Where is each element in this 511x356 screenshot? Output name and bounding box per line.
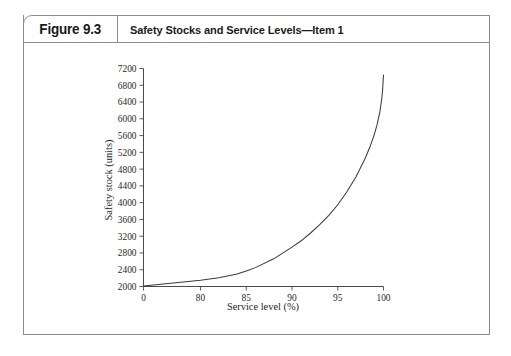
- figure-number-cell: Figure 9.3: [24, 16, 118, 42]
- figure-title-cell: Safety Stocks and Service Levels—Item 1: [118, 16, 489, 42]
- figure-frame: [23, 15, 490, 335]
- figure-header: Figure 9.3 Safety Stocks and Service Lev…: [23, 15, 490, 43]
- figure-number-label: Figure 9.3: [40, 21, 102, 37]
- figure-title-label: Safety Stocks and Service Levels—Item 1: [130, 23, 344, 36]
